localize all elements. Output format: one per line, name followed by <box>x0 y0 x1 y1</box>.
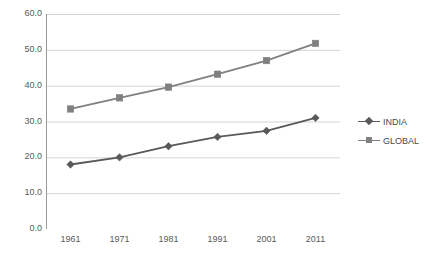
data-point <box>67 106 73 112</box>
y-tick-label: 10.0 <box>2 188 42 197</box>
y-tick-label: 40.0 <box>2 81 42 90</box>
data-point <box>165 84 171 90</box>
series-layer <box>46 14 340 229</box>
plot-area <box>46 14 340 229</box>
line-chart: 0.010.020.030.040.050.060.0 196119711981… <box>0 0 427 262</box>
data-point <box>116 95 122 101</box>
series-line-india <box>71 118 316 165</box>
legend-item-global[interactable]: GLOBAL <box>358 131 426 150</box>
x-tick-label: 1981 <box>158 234 178 244</box>
legend-marker-square-icon <box>358 135 380 146</box>
y-tick-label: 0.0 <box>2 224 42 233</box>
data-point <box>165 143 172 150</box>
legend-marker-diamond-icon <box>358 116 380 127</box>
x-axis: 196119711981199120012011 <box>46 234 340 250</box>
data-point <box>263 127 270 134</box>
series-line-global <box>71 43 316 109</box>
legend-label: INDIA <box>383 117 407 127</box>
y-axis: 0.010.020.030.040.050.060.0 <box>0 0 42 262</box>
y-tick-label: 30.0 <box>2 117 42 126</box>
legend-marker <box>365 117 373 125</box>
legend: INDIAGLOBAL <box>358 112 426 150</box>
legend-marker <box>366 137 372 143</box>
legend-label: GLOBAL <box>383 136 419 146</box>
legend-item-india[interactable]: INDIA <box>358 112 426 131</box>
x-tick-label: 2011 <box>306 234 325 244</box>
data-point <box>312 114 319 121</box>
data-point <box>263 57 269 63</box>
data-point <box>116 154 123 161</box>
y-tick-label: 60.0 <box>2 9 42 18</box>
data-point <box>214 71 220 77</box>
x-tick-label: 1991 <box>207 234 227 244</box>
y-tick-label: 50.0 <box>2 45 42 54</box>
data-point <box>67 161 74 168</box>
x-tick-label: 1961 <box>60 234 80 244</box>
x-tick-label: 2001 <box>256 234 276 244</box>
data-point <box>312 40 318 46</box>
x-tick-label: 1971 <box>109 234 129 244</box>
y-tick-label: 20.0 <box>2 152 42 161</box>
data-point <box>214 133 221 140</box>
